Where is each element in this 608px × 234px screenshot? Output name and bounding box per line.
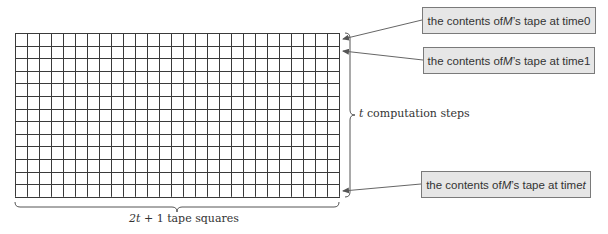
tape-squares-label: 2t + 1 tape squares — [129, 212, 239, 225]
machine-var: M — [503, 55, 513, 67]
label-text: computation steps — [363, 107, 469, 120]
callout-text: the contents of — [426, 179, 501, 191]
callout-text: the contents of — [428, 55, 503, 67]
computation-steps-brace — [345, 33, 355, 197]
grid-lines — [15, 33, 340, 198]
time-value: 0 — [584, 15, 590, 27]
machine-var: M — [503, 15, 513, 27]
label-text: + 1 tape squares — [140, 212, 238, 225]
2t-expr: 2t — [129, 212, 140, 225]
callout-text: ’s tape at time — [513, 15, 584, 27]
computation-steps-label: t computation steps — [359, 107, 470, 120]
callout-time-1: the contents of M’s tape at time 1 — [423, 47, 595, 74]
tape-grid — [0, 0, 608, 234]
callout-text: ’s tape at time — [513, 55, 584, 67]
time-value: 1 — [584, 55, 590, 67]
callout-time-0: the contents of M’s tape at time 0 — [422, 7, 596, 34]
arrow-time-0 — [343, 20, 422, 39]
arrow-time-t — [343, 184, 421, 191]
time-value: t — [583, 179, 586, 191]
callout-text: ’s tape at time — [511, 179, 582, 191]
machine-var: M — [502, 179, 512, 191]
tape-squares-brace — [15, 202, 339, 212]
callout-text: the contents of — [428, 15, 503, 27]
arrow-time-1 — [343, 51, 423, 60]
callout-time-t: the contents of M’s tape at time t — [421, 171, 591, 198]
tableau-diagram: the contents of M’s tape at time 0 the c… — [0, 0, 608, 234]
